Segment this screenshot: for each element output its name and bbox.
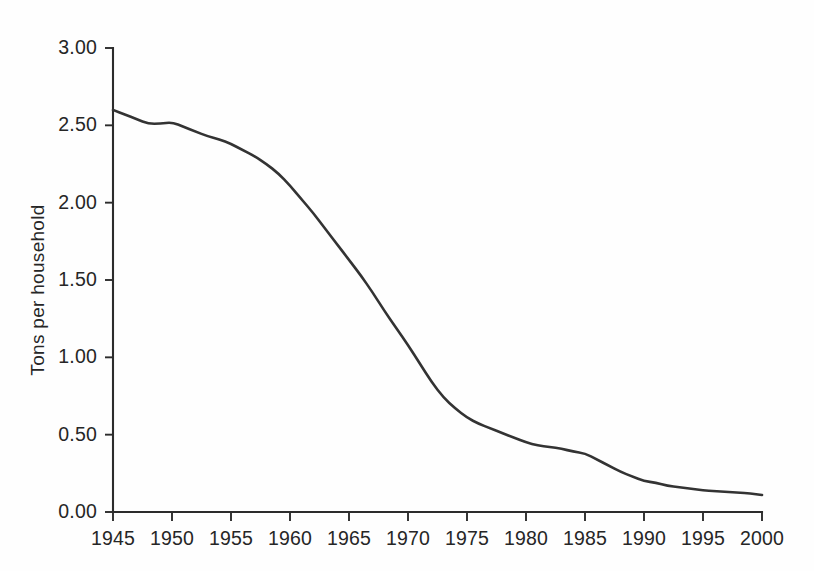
data-series-line <box>113 110 762 495</box>
chart-container: Tons per household 0.000.501.001.502.002… <box>0 0 814 571</box>
x-axis-tick-label: 1995 <box>681 527 725 549</box>
x-axis-tick-label: 1980 <box>504 527 548 549</box>
x-axis-tick-label: 1975 <box>445 527 489 549</box>
x-axis-tick-labels: 1945195019551960196519701975198019851990… <box>91 527 784 549</box>
y-axis-ticks <box>105 48 113 512</box>
x-axis-tick-label: 1950 <box>150 527 194 549</box>
y-axis-tick-label: 1.50 <box>58 268 97 290</box>
x-axis-tick-label: 1970 <box>386 527 430 549</box>
x-axis-ticks <box>113 512 762 521</box>
x-axis-tick-label: 1985 <box>563 527 607 549</box>
x-axis-tick-label: 1965 <box>327 527 371 549</box>
y-axis-title: Tons per household <box>27 204 48 375</box>
y-axis-tick-label: 2.00 <box>58 191 97 213</box>
y-axis-tick-labels: 0.000.501.001.502.002.503.00 <box>58 36 97 522</box>
y-axis-tick-label: 0.00 <box>58 500 97 522</box>
x-axis-tick-label: 1960 <box>268 527 312 549</box>
x-axis-tick-label: 1945 <box>91 527 135 549</box>
y-axis-tick-label: 3.00 <box>58 36 97 58</box>
y-axis-tick-label: 1.00 <box>58 345 97 367</box>
y-axis-tick-label: 2.50 <box>58 113 97 135</box>
x-axis-tick-label: 1990 <box>622 527 666 549</box>
x-axis-tick-label: 1955 <box>209 527 253 549</box>
y-axis-title-group: Tons per household <box>27 204 48 375</box>
y-axis-tick-label: 0.50 <box>58 423 97 445</box>
x-axis-tick-label: 2000 <box>740 527 784 549</box>
line-chart: Tons per household 0.000.501.001.502.002… <box>0 0 814 571</box>
